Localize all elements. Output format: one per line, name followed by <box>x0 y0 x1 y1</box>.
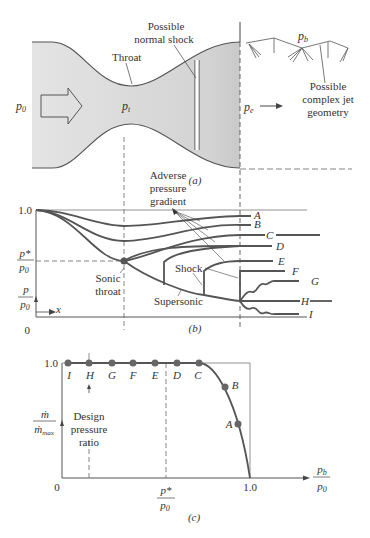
panel-a-caption: (a) <box>189 174 202 187</box>
sonic-throat-point <box>121 258 128 265</box>
curve-g <box>240 281 299 301</box>
pstar-label: p* <box>19 247 32 259</box>
complex-jet-label: geometry <box>307 106 349 118</box>
curve-label-b: B <box>254 218 261 230</box>
point-label-c: C <box>194 369 202 381</box>
point-label-b: B <box>232 379 239 391</box>
design-pressure-label: Design <box>73 410 105 422</box>
possible-normal-shock-label: normal shock <box>134 33 194 45</box>
complex-jet-label: complex jet <box>302 93 354 105</box>
point-label-g: G <box>108 369 116 381</box>
curve-label-i: I <box>308 308 314 320</box>
panel-c-caption: (c) <box>188 511 201 524</box>
point-h <box>86 360 93 367</box>
possible-normal-shock-label: Possible <box>148 20 185 32</box>
point-c <box>196 360 203 367</box>
curve-c <box>36 210 265 261</box>
curve-e-shock <box>204 261 273 295</box>
y-tick-1: 1.0 <box>18 204 32 216</box>
x-axis-label: x <box>55 303 61 315</box>
curve-f <box>240 271 285 301</box>
point-g <box>109 360 116 367</box>
pb-label: pb <box>297 29 308 44</box>
curve-labels: A B C D E F G H I <box>253 209 319 320</box>
point-label-d: D <box>172 369 181 381</box>
point-b <box>222 384 229 391</box>
adverse-gradient-label: gradient <box>150 195 186 207</box>
design-pressure-label: ratio <box>79 436 100 448</box>
y-axis-label: p0 <box>19 298 30 312</box>
curve-label-f: F <box>291 265 299 277</box>
y-arrow-icon <box>34 296 38 302</box>
shock-label: Shock <box>175 262 203 274</box>
curve-label-e: E <box>277 255 285 267</box>
nozzle-diagram-figure: p0 pt pe pb Throat Possible normal shock… <box>0 0 370 538</box>
point-label-i: I <box>66 369 72 381</box>
panel-b-pressure-chart: 1.0 0 p* p0 p p0 x Adverse pressure grad… <box>17 169 332 336</box>
point-f <box>130 360 137 367</box>
pe-label: pe <box>243 100 254 115</box>
panel-c-massflow-chart: I H G F E D C B A 1.0 0 1.0 ṁ ṁmax pb p0… <box>33 353 330 524</box>
curve-label-c: C <box>266 229 274 241</box>
p0-label: p0 <box>15 99 26 114</box>
x-arrow-icon <box>49 309 56 315</box>
sonic-throat-label: throat <box>95 285 121 297</box>
point-d <box>174 360 181 367</box>
x-axis-label: p0 <box>316 480 327 494</box>
panel-b-caption: (b) <box>189 322 202 335</box>
adverse-gradient-label: pressure <box>150 182 187 194</box>
point-label-f: F <box>129 369 137 381</box>
x-axis-label: pb <box>316 463 327 477</box>
y-axis-label: p <box>22 283 29 295</box>
point-a <box>235 421 242 428</box>
complex-jet-label: Possible <box>310 80 347 92</box>
curve-label-g: G <box>311 275 319 287</box>
throat-label: Throat <box>112 51 141 63</box>
y-tick-1: 1.0 <box>44 357 58 369</box>
design-pressure-label: pressure <box>71 423 108 435</box>
point-label-h: H <box>85 369 95 381</box>
supersonic-label: Supersonic <box>154 295 203 307</box>
x-tick-1: 1.0 <box>243 481 257 493</box>
adverse-gradient-label: Adverse <box>150 169 187 181</box>
x-tick-0: 0 <box>54 481 60 493</box>
point-label-a: A <box>225 418 233 430</box>
y-axis-label: ṁmax <box>34 423 55 437</box>
pstar-label: p0 <box>159 499 170 513</box>
point-i <box>65 360 72 367</box>
sonic-throat-label: Sonic <box>95 272 120 284</box>
y-axis-label: ṁ <box>41 408 49 420</box>
point-label-e: E <box>151 369 159 381</box>
pstar-label: p0 <box>18 261 29 275</box>
curve-label-d: D <box>275 240 284 252</box>
y-arrow-icon <box>60 420 64 426</box>
y-tick-0: 0 <box>25 324 31 336</box>
point-e <box>152 360 159 367</box>
pstar-label: p* <box>160 484 173 496</box>
jet-geometry-sketch <box>246 38 348 83</box>
curve-d <box>124 246 272 261</box>
x-arrow-icon <box>303 476 310 481</box>
curve-i <box>240 301 299 314</box>
curve-label-h: H <box>300 295 310 307</box>
